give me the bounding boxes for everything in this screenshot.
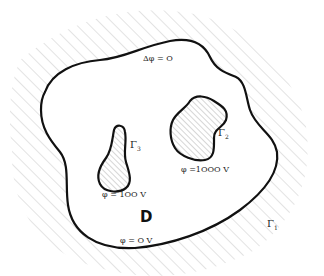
- gamma3-label: Γ3: [130, 139, 141, 152]
- domain-diagram: [0, 0, 324, 276]
- gamma3-potential-label: φ = 1OO V: [102, 190, 146, 199]
- region-d-label: D: [140, 208, 152, 226]
- gamma1-label: Γ1: [267, 218, 278, 231]
- outer-boundary-potential-label: φ = O V: [120, 236, 152, 245]
- gamma2-potential-label: φ =1OOO V: [181, 165, 229, 174]
- gamma2-label: Γ2: [218, 127, 229, 140]
- laplace-equation-label: Δφ = O: [143, 54, 173, 63]
